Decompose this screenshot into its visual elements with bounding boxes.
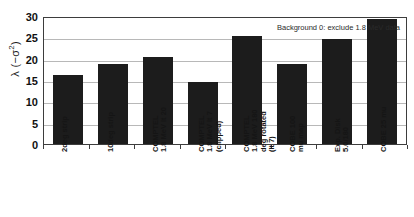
- plot-area: Background 0: exclude 1.8 MeV data: [43, 17, 407, 145]
- chart-annotation: Background 0: exclude 1.8 MeV data: [277, 23, 400, 32]
- y-axis-tick-label: 25: [16, 33, 38, 44]
- y-axis-tick-label: 20: [16, 54, 38, 65]
- y-axis-tick-label: 30: [16, 12, 38, 23]
- x-axis-tick-mark: [225, 145, 226, 149]
- x-axis-category-labels: 2deg strip10deg stripCOMPTEL 1.8 MeV lt …: [43, 150, 407, 217]
- bar-series: [44, 18, 406, 144]
- x-axis-tick-mark: [362, 145, 363, 149]
- x-axis-category-label: COMPTEL 1.8 MeV lt 7 (clipped): [198, 90, 223, 152]
- y-axis-tick-label: 0: [16, 140, 38, 151]
- x-axis-tick-mark: [89, 145, 90, 149]
- x-axis-label-slot: COBE 25 mu: [352, 150, 414, 214]
- bar-chart-figure: λ (−σ2) 051015202530 Background 0: exclu…: [0, 0, 414, 217]
- x-axis-category-label: COMPTEL 1.8 MeV 180 deg rotated (lt 7): [243, 90, 277, 152]
- x-axis-category-label: COBE 100 mu map: [289, 90, 306, 152]
- y-axis-tick-label: 5: [16, 118, 38, 129]
- x-axis-tick-mark: [407, 145, 408, 149]
- x-axis-tick-mark: [316, 145, 317, 149]
- y-axis-tick-label: 10: [16, 97, 38, 108]
- x-axis-category-label: 2deg strip: [61, 90, 69, 152]
- x-axis-category-label: COMPTEL 1.8 MeV lt 20: [152, 90, 169, 152]
- x-axis-category-label: 10deg strip: [107, 90, 115, 152]
- x-axis-category-label: COBE 25 mu: [380, 90, 388, 152]
- x-axis-tick-mark: [180, 145, 181, 149]
- y-axis-tick-label: 15: [16, 76, 38, 87]
- x-axis-tick-mark: [43, 145, 44, 149]
- x-axis-category-label: Exp. Disk 5.0/180: [334, 90, 351, 152]
- x-axis-tick-mark: [134, 145, 135, 149]
